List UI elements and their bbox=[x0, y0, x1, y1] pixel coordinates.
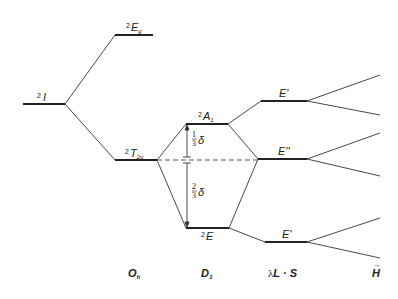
label-e-double-prime: E'' bbox=[278, 145, 290, 157]
svg-text:δ: δ bbox=[198, 186, 205, 198]
label-eg: 2Eg bbox=[126, 21, 142, 34]
label-e-prime-top: E' bbox=[279, 87, 289, 99]
column-label-field: H bbox=[372, 267, 381, 279]
column-label-d3: D3 bbox=[201, 267, 213, 280]
splitting-arrows bbox=[183, 125, 191, 227]
svg-text:1: 1 bbox=[192, 130, 196, 139]
fraction-two-thirds-delta: 2 3 δ bbox=[192, 182, 205, 200]
label-t2g: 2T2g bbox=[125, 147, 144, 160]
column-label-oh: Oh bbox=[128, 267, 141, 280]
label-e: 2E bbox=[201, 230, 214, 242]
svg-text:3: 3 bbox=[192, 139, 196, 148]
svg-text:δ: δ bbox=[198, 134, 205, 146]
energy-level-diagram: 2I 2Eg 2T2g 2A1 2E E' E'' E' 1 3 δ 2 3 δ… bbox=[0, 0, 398, 299]
label-a1: 2A1 bbox=[198, 110, 214, 123]
connector-lines bbox=[65, 35, 380, 258]
column-label-spin-orbit: λL · S bbox=[268, 267, 298, 279]
label-e-prime-bottom: E' bbox=[282, 228, 292, 240]
svg-text:3: 3 bbox=[192, 191, 196, 200]
fraction-one-third-delta: 1 3 δ bbox=[192, 130, 205, 148]
label-free-ion: 2I bbox=[37, 91, 46, 103]
svg-text:2: 2 bbox=[192, 182, 196, 191]
